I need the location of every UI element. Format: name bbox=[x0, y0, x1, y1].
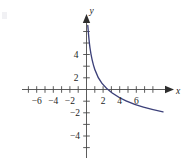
logarithmic-curve bbox=[88, 26, 163, 112]
x-tick-label-neg4: −4 bbox=[48, 96, 58, 106]
x-tick-label-2: 2 bbox=[101, 96, 106, 106]
x-tick-label-4: 4 bbox=[117, 96, 122, 106]
x-axis-label: x bbox=[175, 86, 181, 96]
x-axis-arrow-icon bbox=[165, 86, 174, 93]
x-tick-label-neg6: −6 bbox=[32, 96, 42, 106]
x-tick-label-neg2: −2 bbox=[65, 96, 75, 106]
y-axis-label: y bbox=[88, 6, 94, 16]
graph-figure: −6 −4 −2 2 4 6 4 2 −2 −4 x y bbox=[0, 0, 187, 166]
y-tick-label-neg4: −4 bbox=[70, 131, 80, 141]
y-tick-label-neg2: −2 bbox=[70, 108, 80, 118]
x-tick-label-6: 6 bbox=[134, 96, 139, 106]
y-tick-label-4: 4 bbox=[74, 50, 79, 60]
y-tick-label-2: 2 bbox=[74, 73, 79, 83]
